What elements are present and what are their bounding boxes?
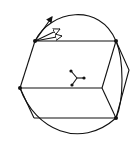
node-branch-2 xyxy=(82,76,85,79)
diagram xyxy=(0,0,139,151)
node-branch-3 xyxy=(70,83,73,86)
edge-left-upper xyxy=(20,41,35,88)
node-branch-1 xyxy=(69,69,72,72)
curve-top xyxy=(35,15,116,41)
vertex-top-left xyxy=(33,39,37,43)
vertex-top-right xyxy=(114,39,118,43)
curve-bottom xyxy=(20,88,116,134)
vertex-mid-left xyxy=(18,86,22,90)
edge-right-upper xyxy=(102,41,116,88)
vertex-bottom-right xyxy=(114,116,118,120)
edge-right-lower xyxy=(102,88,116,118)
